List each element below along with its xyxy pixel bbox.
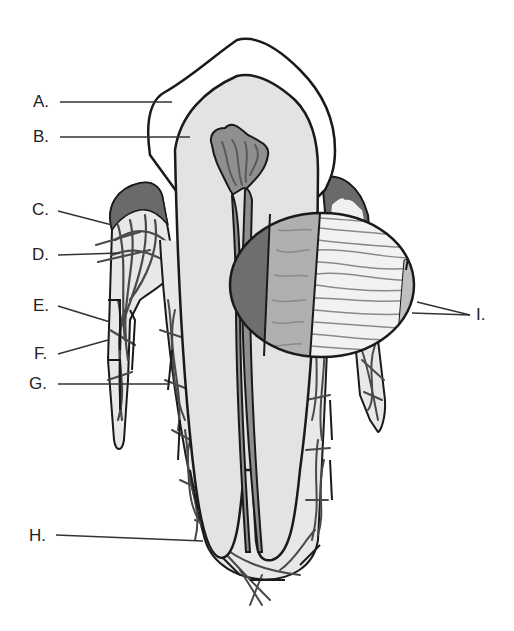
label-e: E. [33,297,49,314]
label-i: I. [476,306,485,323]
left-alveolar-bone [96,182,175,449]
tooth-diagram: A. B. C. D. E. F. G. H. I. [0,0,514,631]
tooth-illustration [0,0,514,631]
label-h: H. [29,527,46,544]
label-a: A. [33,93,49,110]
label-f: F. [34,345,47,362]
label-d: D. [32,246,49,263]
label-g: G. [29,375,47,392]
label-b: B. [33,128,49,145]
label-c: C. [32,201,49,218]
